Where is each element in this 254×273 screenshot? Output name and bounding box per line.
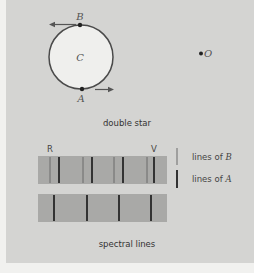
- caption-spectral-lines: spectral lines: [99, 239, 156, 249]
- observer-dot: [199, 52, 203, 56]
- star-a-dot: [80, 87, 84, 91]
- label-violet: V: [151, 144, 157, 154]
- spectrum-strip-bottom: [38, 194, 167, 222]
- caption-double-star: double star: [103, 118, 152, 128]
- label-a: A: [76, 93, 84, 104]
- legend-b-label: lines of B: [192, 152, 232, 162]
- star-b-dot: [78, 23, 82, 27]
- arrow-right-icon: [95, 87, 114, 92]
- label-red: R: [47, 144, 53, 154]
- legend-a-label: lines of A: [192, 174, 232, 184]
- label-o: O: [204, 48, 212, 59]
- label-c: C: [76, 52, 84, 63]
- label-b: B: [75, 11, 83, 22]
- double-star-diagram: B A C O double star R V lines: [0, 0, 254, 273]
- spectrum-strip-top: [38, 156, 167, 184]
